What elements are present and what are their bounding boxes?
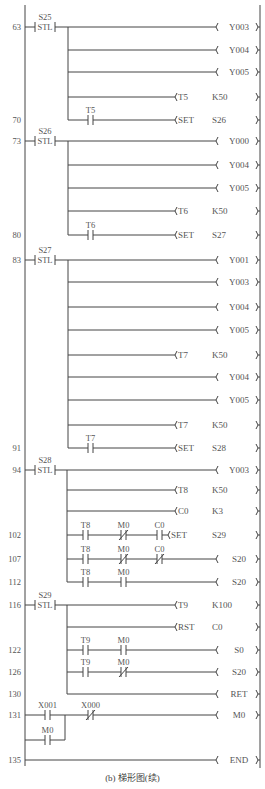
instr-op: C0 xyxy=(178,506,189,516)
instr-op: T9 xyxy=(178,600,188,610)
instr-bracket xyxy=(175,490,177,494)
instr-bracket xyxy=(175,421,177,425)
stl-state-label: S26 xyxy=(38,126,51,136)
coil-bracket xyxy=(256,278,258,282)
coil-label: RET xyxy=(231,689,249,699)
coil-bracket xyxy=(256,50,258,54)
instr-op: T7 xyxy=(178,350,188,360)
coil-bracket xyxy=(216,646,218,650)
coil-bracket xyxy=(216,650,218,654)
coil-bracket xyxy=(256,535,258,539)
coil-bracket xyxy=(216,184,218,188)
step-number: 131 xyxy=(8,710,21,720)
coil-label: Y005 xyxy=(229,183,249,193)
coil-bracket xyxy=(216,46,218,50)
coil-bracket xyxy=(256,120,258,124)
contact-label: M0 xyxy=(118,544,130,554)
instr-op: SET xyxy=(171,530,188,540)
coil-label: S20 xyxy=(232,667,247,677)
coil-bracket xyxy=(256,93,258,97)
coil-bracket xyxy=(256,578,258,582)
instr-bracket xyxy=(175,351,177,355)
coil-bracket xyxy=(256,137,258,141)
instr-arg: K100 xyxy=(212,600,232,610)
coil-label: END xyxy=(230,755,249,765)
instr-arg: S28 xyxy=(212,443,227,453)
step-number: 73 xyxy=(13,136,22,146)
coil-bracket xyxy=(256,27,258,31)
contact-label: T9 xyxy=(81,635,90,645)
coil-label: Y005 xyxy=(229,395,249,405)
coil-bracket xyxy=(256,355,258,359)
coil-bracket xyxy=(216,582,218,586)
coil-bracket xyxy=(256,582,258,586)
coil-bracket xyxy=(256,188,258,192)
instr-bracket xyxy=(175,116,177,120)
step-number: 83 xyxy=(13,255,22,265)
coil-bracket xyxy=(256,646,258,650)
coil-bracket xyxy=(256,351,258,355)
coil-bracket xyxy=(216,23,218,27)
coil-bracket xyxy=(256,490,258,494)
coil-bracket xyxy=(216,68,218,72)
stl-state-label: S28 xyxy=(38,455,51,465)
step-number: 107 xyxy=(8,554,21,564)
instr-arg: S26 xyxy=(212,115,227,125)
instr-op: T7 xyxy=(178,420,188,430)
coil-bracket xyxy=(256,470,258,474)
stl-state-label: S29 xyxy=(38,590,51,600)
instr-arg: S29 xyxy=(212,530,227,540)
contact-label: T8 xyxy=(81,567,90,577)
instr-bracket xyxy=(175,355,177,359)
contact-label: M0 xyxy=(118,567,130,577)
coil-bracket xyxy=(256,231,258,235)
coil-bracket xyxy=(216,50,218,54)
instr-op: T5 xyxy=(178,92,188,102)
stl-state-label: S27 xyxy=(38,245,51,255)
coil-bracket xyxy=(256,715,258,719)
coil-bracket xyxy=(216,559,218,563)
coil-bracket xyxy=(256,448,258,452)
coil-bracket xyxy=(256,444,258,448)
contact-label: T9 xyxy=(81,657,90,667)
coil-bracket xyxy=(256,507,258,511)
step-number: 80 xyxy=(13,230,22,240)
coil-label: S20 xyxy=(232,554,247,564)
contact-label: T8 xyxy=(81,544,90,554)
coil-bracket xyxy=(256,260,258,264)
ladder-diagram: 63STLS25Y003Y004Y005T5K5070T5SETS2673STL… xyxy=(0,0,265,789)
coil-bracket xyxy=(216,396,218,400)
coil-bracket xyxy=(216,330,218,334)
instr-bracket xyxy=(175,207,177,211)
coil-bracket xyxy=(256,235,258,239)
stl-label: STL xyxy=(37,255,52,265)
contact-label: T7 xyxy=(86,433,95,443)
coil-label: Y003 xyxy=(229,277,249,287)
step-number: 91 xyxy=(13,443,22,453)
coil-label: Y005 xyxy=(229,67,249,77)
coil-bracket xyxy=(256,650,258,654)
instr-op: RST xyxy=(178,622,195,632)
coil-bracket xyxy=(216,400,218,404)
step-number: 102 xyxy=(8,530,21,540)
coil-bracket xyxy=(256,161,258,165)
coil-bracket xyxy=(216,470,218,474)
coil-bracket xyxy=(256,555,258,559)
step-number: 126 xyxy=(8,667,21,677)
coil-bracket xyxy=(256,116,258,120)
coil-bracket xyxy=(256,486,258,490)
stl-state-label: S25 xyxy=(38,12,51,22)
coil-bracket xyxy=(256,211,258,215)
step-number: 63 xyxy=(13,22,22,32)
step-number: 135 xyxy=(8,755,21,765)
instr-bracket xyxy=(175,605,177,609)
coil-bracket xyxy=(256,377,258,381)
coil-bracket xyxy=(216,326,218,330)
coil-bracket xyxy=(256,760,258,764)
instr-bracket xyxy=(175,448,177,452)
coil-bracket xyxy=(216,188,218,192)
coil-label: Y003 xyxy=(229,22,249,32)
coil-bracket xyxy=(216,141,218,145)
coil-bracket xyxy=(216,27,218,31)
coil-label: Y003 xyxy=(229,465,249,475)
